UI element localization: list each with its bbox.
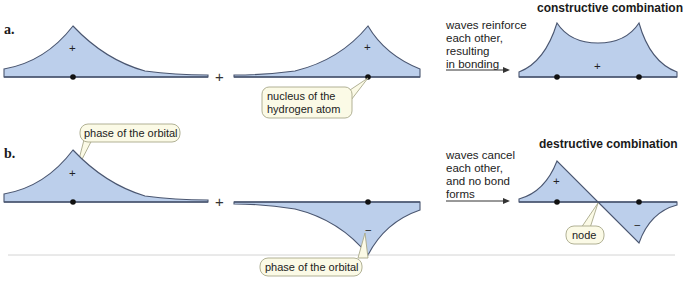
callout-phase-top: phase of the orbital [76,124,180,171]
plus-operator-b: + [215,193,224,210]
plus-operator-a: + [215,68,224,85]
arrow-head-icon [503,198,510,204]
svg-text:each other,: each other, [446,32,503,44]
nucleus-dot [70,199,76,205]
nucleus-dot [554,74,560,80]
phase-sign-plus: + [594,60,601,72]
orbital-a-constructive: + [519,23,677,80]
orbital-a-left: + [4,26,208,80]
callout-phase-bottom: phase of the orbital [260,233,368,276]
phase-sign-minus: − [634,219,641,231]
phase-sign-plus: + [69,42,76,54]
svg-text:waves reinforce: waves reinforce [445,19,527,31]
nucleus-dot [365,199,371,205]
arrow-annotation-b: waves cancel each other, and no bond for… [445,149,515,204]
svg-text:each other,: each other, [446,162,503,174]
svg-text:forms: forms [446,188,475,200]
phase-sign-minus: − [365,224,372,236]
constructive-title: constructive combination [537,1,683,15]
nucleus-dot [636,199,642,205]
svg-text:node: node [572,229,596,241]
svg-text:resulting: resulting [446,45,489,57]
arrow-annotation-a: waves reinforce each other, resulting in… [445,19,527,73]
arrow-head-icon [503,67,510,73]
phase-sign-plus: + [364,41,371,53]
nucleus-dot [636,74,642,80]
svg-text:waves cancel: waves cancel [445,149,515,161]
orbital-a-middle: + [234,26,420,80]
orbital-b-left: + [4,150,208,205]
nucleus-dot [70,74,76,80]
svg-text:phase of the orbital: phase of the orbital [265,261,359,273]
callout-nucleus-line-2: hydrogen atom [267,103,340,115]
svg-text:in bonding: in bonding [446,58,499,70]
part-b-label: b. [4,146,15,161]
callout-nucleus: nucleus of the hydrogen atom [262,78,368,118]
part-a-label: a. [4,22,15,37]
destructive-title: destructive combination [539,137,678,151]
phase-sign-plus: + [69,167,76,179]
callout-nucleus-line-1: nucleus of the [267,90,336,102]
nucleus-dot [554,199,560,205]
svg-text:phase of the orbital: phase of the orbital [84,127,178,139]
phase-sign-plus: + [553,175,560,187]
callout-node: node [566,203,604,244]
orbital-combination-diagram: a. + + + nucleus of the hydrogen atom wa… [0,0,688,282]
orbital-b-middle: − [234,199,420,255]
svg-text:and no bond: and no bond [446,175,510,187]
